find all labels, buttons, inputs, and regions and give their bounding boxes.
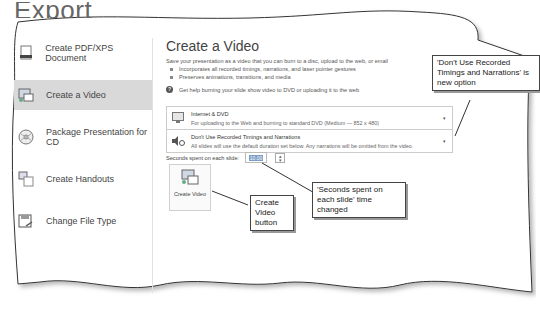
callout-seconds: 'Seconds spent on each slide' time chang… [312,182,406,218]
callout-timings: 'Don't Use Recorded Timings and Narratio… [432,55,540,91]
callout-create-video: Create Video button [250,195,294,231]
